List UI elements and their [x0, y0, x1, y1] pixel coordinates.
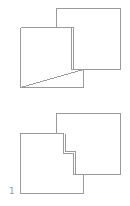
figure-bottom: 1	[9, 114, 121, 197]
back-square-bottom	[57, 114, 121, 175]
back-square-top	[57, 9, 121, 70]
figure-top	[21, 9, 121, 88]
diagram-canvas: 1	[0, 0, 130, 206]
figure-label: 1	[9, 186, 15, 196]
front-square-top	[21, 28, 84, 88]
front-square-bottom	[21, 134, 84, 194]
